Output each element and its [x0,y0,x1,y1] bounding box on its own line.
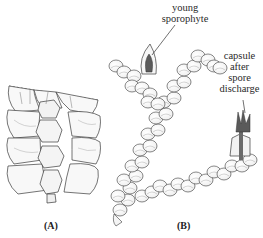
discharged-capsule [236,110,250,132]
panel-label-a: (A) [44,220,58,231]
label-young-sporophyte: young sporophyte [154,2,216,24]
panel-a-shoot-detail [7,86,101,203]
figure: young sporophyte capsule after spore dis… [0,0,263,238]
label-line: sporophyte [154,13,216,24]
label-line: spore [216,72,263,83]
label-line: after [216,61,263,72]
label-line: capsule [216,50,263,61]
label-capsule-after-spore-discharge: capsule after spore discharge [216,50,263,94]
upper-left-branch [109,44,165,110]
label-line: discharge [216,83,263,94]
panel-label-b: (B) [177,220,190,231]
label-line: young [154,2,216,13]
liverwort-illustration [0,0,263,238]
seta [239,130,243,160]
leader-line-young-sporophyte [152,25,175,55]
